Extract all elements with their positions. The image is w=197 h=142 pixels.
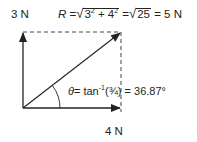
tan-text: = tan [74, 85, 99, 97]
vector-diagram [0, 0, 197, 142]
resultant-value: = 5 N [154, 8, 182, 20]
horizontal-vector-label: 4 N [105, 126, 123, 138]
exponent-1: 2 [91, 7, 95, 14]
radicand-2: 25 [136, 8, 151, 21]
exponent-2: 2 [114, 7, 118, 14]
radical-sign-icon-2: √ [129, 6, 136, 21]
angle-arc [52, 85, 60, 108]
resultant-symbol: R [58, 8, 66, 20]
radicand-term-2: + 4 [98, 8, 114, 20]
vertical-vector-label: 3 N [11, 9, 29, 21]
angle-value: (¾) = 36.87° [105, 85, 166, 97]
resultant-equation: R =√32 + 42 =√25 = 5 N [58, 7, 182, 21]
radicand-1: 32 + 42 [83, 8, 119, 21]
angle-equation: θ= tan-1(¾) = 36.87° [68, 86, 166, 97]
radical-sign-icon: √ [76, 6, 83, 21]
